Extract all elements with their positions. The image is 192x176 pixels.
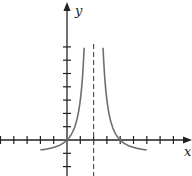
- y-axis-label: y: [74, 3, 83, 18]
- function-graph: y x: [0, 0, 192, 176]
- x-axis-label: x: [184, 144, 192, 159]
- curve-left-branch: [40, 48, 84, 150]
- curve-right-branch: [103, 48, 147, 150]
- y-axis-arrow-icon: [64, 2, 71, 11]
- x-axis-arrow-icon: [183, 137, 192, 144]
